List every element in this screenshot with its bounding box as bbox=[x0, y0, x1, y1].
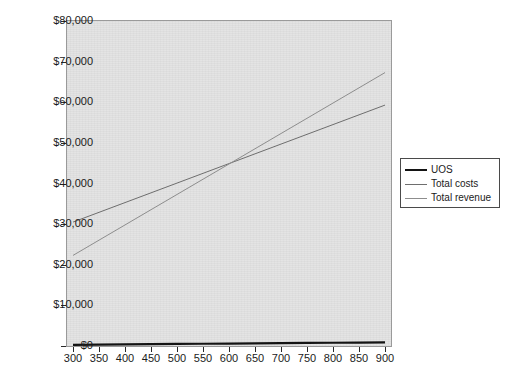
series-line-uos bbox=[73, 342, 385, 344]
y-tick-label: $70,000 bbox=[29, 55, 93, 67]
chart-legend: UOSTotal costsTotal revenue bbox=[400, 158, 500, 208]
legend-label: Total costs bbox=[431, 177, 478, 191]
y-tick-label: $60,000 bbox=[29, 95, 93, 107]
series-line-total-revenue bbox=[73, 73, 385, 256]
chart-screenshot: $0$10,000$20,000$30,000$40,000$50,000$60… bbox=[0, 0, 513, 380]
x-tick-label: 900 bbox=[368, 352, 402, 364]
y-tick-label: $80,000 bbox=[29, 14, 93, 26]
legend-item-total-costs[interactable]: Total costs bbox=[405, 177, 495, 191]
y-tick-label: $10,000 bbox=[29, 298, 93, 310]
series-lines bbox=[67, 21, 391, 346]
y-tick-label: $50,000 bbox=[29, 136, 93, 148]
y-tick-label: $40,000 bbox=[29, 177, 93, 189]
y-tick-label: $20,000 bbox=[29, 258, 93, 270]
y-tick-label: $0 bbox=[29, 339, 93, 351]
legend-label: Total revenue bbox=[431, 191, 491, 205]
legend-swatch-line-icon bbox=[405, 169, 427, 171]
legend-item-uos[interactable]: UOS bbox=[405, 163, 495, 177]
legend-swatch-line-icon bbox=[405, 184, 427, 185]
legend-swatch-line-icon bbox=[405, 198, 427, 199]
legend-item-total-revenue[interactable]: Total revenue bbox=[405, 191, 495, 205]
y-tick-label: $30,000 bbox=[29, 217, 93, 229]
plot-area bbox=[66, 20, 392, 347]
legend-label: UOS bbox=[431, 163, 453, 177]
